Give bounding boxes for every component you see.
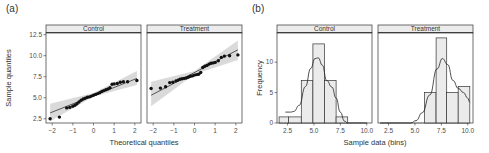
panel-a: (a)Control−2−10122.55.07.510.012.5Treatm… bbox=[4, 3, 242, 147]
data-point bbox=[228, 54, 231, 57]
y-tick-label: 12.5 bbox=[29, 31, 42, 38]
data-point bbox=[164, 85, 167, 88]
data-point bbox=[149, 87, 152, 90]
y-tick-label: 2.5 bbox=[33, 115, 42, 122]
panel-label: (a) bbox=[6, 3, 18, 14]
data-point bbox=[126, 80, 129, 83]
data-point bbox=[135, 79, 138, 82]
data-point bbox=[171, 81, 174, 84]
data-point bbox=[116, 82, 119, 85]
data-point bbox=[108, 86, 111, 89]
x-tick-label: 0 bbox=[193, 127, 197, 134]
facet-strip-label: Control bbox=[83, 25, 105, 32]
data-point bbox=[122, 80, 125, 83]
x-tick-label: 0 bbox=[92, 127, 96, 134]
x-tick-label: 1 bbox=[112, 127, 116, 134]
histogram-bar bbox=[289, 117, 302, 123]
x-tick-label: 7.5 bbox=[336, 127, 345, 134]
histogram-bar bbox=[301, 80, 313, 123]
facet-control: Control−2−10122.55.07.510.012.5 bbox=[29, 25, 141, 134]
y-axis-label: Sample quantiles bbox=[4, 49, 13, 107]
data-point bbox=[214, 61, 217, 64]
x-tick-label: −2 bbox=[48, 127, 56, 134]
data-point bbox=[58, 115, 61, 118]
data-point bbox=[168, 81, 171, 84]
histogram-bar bbox=[424, 93, 436, 123]
histogram-bar bbox=[436, 38, 447, 123]
y-tick-label: 10 bbox=[266, 58, 274, 65]
histogram-bar bbox=[325, 80, 337, 123]
x-tick-label: −1 bbox=[69, 127, 77, 134]
x-tick-label: −2 bbox=[149, 127, 157, 134]
facet-strip-label: Control bbox=[314, 25, 336, 32]
x-tick-label: 2.5 bbox=[384, 127, 393, 134]
data-point bbox=[217, 59, 220, 62]
chart-figure: (a)Control−2−10122.55.07.510.012.5Treatm… bbox=[0, 0, 489, 153]
data-point bbox=[223, 54, 226, 57]
facet-treatment: Treatment−2−1012 bbox=[147, 25, 242, 134]
y-tick-label: 5.0 bbox=[33, 94, 42, 101]
data-point bbox=[159, 86, 162, 89]
x-tick-label: 2.5 bbox=[283, 127, 292, 134]
y-tick-label: 5 bbox=[269, 89, 273, 96]
x-tick-label: 2 bbox=[234, 127, 238, 134]
facet-strip-label: Treatment bbox=[180, 25, 210, 32]
facet-treatment: Treatment2.55.07.510.0 bbox=[378, 25, 474, 134]
x-tick-label: 7.5 bbox=[437, 127, 446, 134]
x-tick-label: 10.0 bbox=[360, 127, 373, 134]
data-point bbox=[48, 117, 51, 120]
x-axis-label: Sample data (bins) bbox=[344, 138, 407, 147]
histogram-bar bbox=[279, 117, 289, 123]
x-tick-label: 10.0 bbox=[461, 127, 474, 134]
data-point bbox=[220, 56, 223, 59]
x-axis-label: Theoretical quantiles bbox=[109, 138, 178, 147]
plot-area bbox=[147, 33, 242, 123]
x-tick-label: −1 bbox=[170, 127, 178, 134]
x-tick-label: 5.0 bbox=[410, 127, 419, 134]
y-tick-label: 0 bbox=[269, 119, 273, 126]
data-point bbox=[236, 53, 239, 56]
x-tick-label: 5.0 bbox=[309, 127, 318, 134]
histogram-bar bbox=[313, 44, 325, 123]
histogram-bar bbox=[447, 93, 459, 123]
data-point bbox=[119, 81, 122, 84]
histogram-bar bbox=[458, 87, 470, 124]
data-point bbox=[68, 106, 71, 109]
panel-b: (b)Control2.55.07.510.00510Treatment2.55… bbox=[252, 3, 474, 147]
y-tick-label: 10.0 bbox=[29, 52, 42, 59]
x-tick-label: 1 bbox=[213, 127, 217, 134]
y-axis-label: Frequency bbox=[255, 60, 264, 96]
data-point bbox=[113, 82, 116, 85]
y-tick-label: 7.5 bbox=[33, 73, 42, 80]
facet-control: Control2.55.07.510.00510 bbox=[266, 25, 374, 134]
facet-strip-label: Treatment bbox=[411, 25, 441, 32]
data-point bbox=[65, 106, 68, 109]
panel-label: (b) bbox=[252, 3, 264, 14]
x-tick-label: 2 bbox=[133, 127, 137, 134]
data-point bbox=[199, 71, 202, 74]
